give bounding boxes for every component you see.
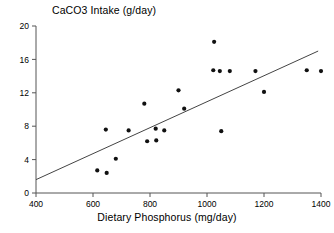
- data-point: [154, 138, 158, 142]
- data-point: [114, 157, 118, 161]
- x-tick-label: 800: [143, 199, 157, 209]
- data-point: [162, 128, 166, 132]
- data-point: [176, 88, 180, 92]
- data-point: [262, 90, 266, 94]
- x-tick-label: 1000: [198, 199, 217, 209]
- trend-line: [36, 51, 318, 180]
- data-point: [182, 107, 186, 111]
- data-point: [211, 68, 215, 72]
- y-tick-label: 16: [20, 55, 30, 65]
- scatter-chart: CaCO3 Intake (g/day) 0481216204006008001…: [0, 0, 334, 233]
- y-tick-label: 12: [20, 88, 30, 98]
- data-point: [218, 69, 222, 73]
- x-tick-label: 400: [29, 199, 43, 209]
- data-point: [105, 171, 109, 175]
- plot-area: 048121620400600800100012001400: [0, 0, 334, 233]
- y-tick-label: 20: [20, 21, 30, 31]
- data-point: [228, 69, 232, 73]
- data-point: [142, 102, 146, 106]
- data-point: [253, 69, 257, 73]
- data-point: [127, 128, 131, 132]
- data-point: [104, 127, 108, 131]
- y-tick-label: 0: [24, 188, 29, 198]
- x-tick-label: 600: [86, 199, 100, 209]
- data-point: [305, 68, 309, 72]
- x-tick-label: 1200: [255, 199, 274, 209]
- y-tick-label: 8: [24, 121, 29, 131]
- x-axis-title: Dietary Phosphorus (mg/day): [0, 211, 334, 223]
- data-point: [212, 40, 216, 44]
- data-point: [95, 168, 99, 172]
- y-tick-label: 4: [24, 155, 29, 165]
- x-tick-label: 1400: [312, 199, 331, 209]
- data-point: [154, 127, 158, 131]
- data-point: [219, 129, 223, 133]
- data-point: [145, 139, 149, 143]
- data-point: [319, 69, 323, 73]
